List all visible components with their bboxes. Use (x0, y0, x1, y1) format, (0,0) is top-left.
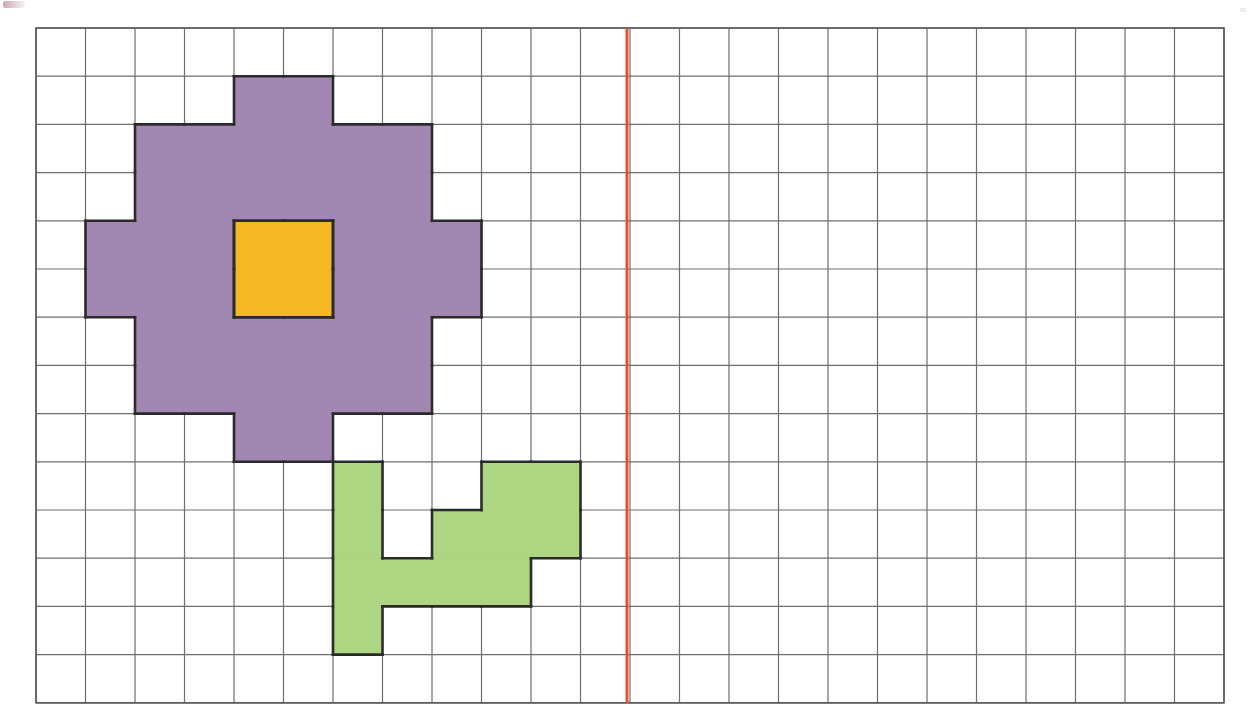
cell-petals (432, 221, 482, 270)
cell-petals (234, 365, 284, 414)
cell-petals (383, 317, 433, 366)
cell-petals (234, 173, 284, 222)
cell-petals (86, 221, 136, 270)
cell-petals (86, 269, 136, 318)
cell-flower-center (284, 269, 334, 318)
cell-petals (333, 221, 383, 270)
cell-stem-and-leaves (531, 510, 581, 559)
cell-petals (234, 414, 284, 463)
cell-petals (284, 124, 334, 173)
cell-petals (135, 365, 185, 414)
cell-petals (234, 317, 284, 366)
cell-stem-and-leaves (432, 510, 482, 559)
cell-petals (333, 269, 383, 318)
cell-petals (284, 317, 334, 366)
cell-petals (333, 317, 383, 366)
cell-petals (135, 317, 185, 366)
cell-petals (383, 221, 433, 270)
cell-stem-and-leaves (432, 558, 482, 607)
cell-petals (135, 124, 185, 173)
cell-petals (333, 173, 383, 222)
cell-petals (135, 269, 185, 318)
cell-petals (135, 221, 185, 270)
cell-petals (185, 317, 235, 366)
cell-petals (185, 221, 235, 270)
cell-petals (383, 173, 433, 222)
cell-flower-center (234, 269, 284, 318)
cell-stem-and-leaves (482, 558, 532, 607)
cell-petals (234, 76, 284, 125)
cell-stem-and-leaves (383, 558, 433, 607)
cell-petals (284, 414, 334, 463)
cell-flower-center (284, 221, 334, 270)
cell-petals (185, 124, 235, 173)
cell-stem-and-leaves (482, 510, 532, 559)
cell-stem-and-leaves (333, 606, 383, 655)
cell-petals (284, 365, 334, 414)
cell-stem-and-leaves (333, 510, 383, 559)
cell-petals (333, 365, 383, 414)
cell-stem-and-leaves (482, 462, 532, 511)
cell-petals (383, 269, 433, 318)
cell-petals (135, 173, 185, 222)
cell-petals (284, 76, 334, 125)
cell-petals (234, 124, 284, 173)
grid-canvas (0, 0, 1248, 723)
cell-petals (185, 365, 235, 414)
cell-flower-center (234, 221, 284, 270)
cell-stem-and-leaves (333, 462, 383, 511)
cell-stem-and-leaves (531, 462, 581, 511)
cell-petals (284, 173, 334, 222)
cell-petals (333, 124, 383, 173)
cell-petals (383, 365, 433, 414)
cell-petals (185, 173, 235, 222)
cell-petals (185, 269, 235, 318)
cell-stem-and-leaves (333, 558, 383, 607)
cell-petals (432, 269, 482, 318)
cell-petals (383, 124, 433, 173)
